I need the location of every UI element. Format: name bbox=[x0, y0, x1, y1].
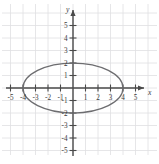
y-axis-label: y bbox=[65, 5, 70, 14]
y-tick-label: -3 bbox=[62, 122, 68, 130]
y-tick-label: -2 bbox=[62, 110, 68, 118]
y-tick-label: 3 bbox=[64, 47, 68, 55]
x-tick-label: -3 bbox=[33, 94, 39, 102]
y-tick-label: -4 bbox=[62, 135, 68, 143]
x-tick-label: -4 bbox=[20, 94, 26, 102]
grid-lines-horizontal bbox=[2, 13, 157, 151]
x-tick-label: 3 bbox=[109, 94, 113, 102]
x-axis-label: x bbox=[147, 88, 152, 97]
y-tick-label: -1 bbox=[62, 97, 68, 105]
y-tick-label: 2 bbox=[64, 60, 68, 68]
x-tick-label: 5 bbox=[134, 94, 138, 102]
x-tick-label: -5 bbox=[8, 94, 14, 102]
y-tick-label: -5 bbox=[62, 147, 68, 155]
ellipse-graph-figure: -5-4-3-2-112345 54321-1-2-3-4-5 x y bbox=[0, 0, 159, 164]
x-tick-label: 1 bbox=[84, 94, 88, 102]
grid-lines-vertical bbox=[11, 4, 149, 155]
x-axis-arrow-icon bbox=[138, 85, 144, 90]
y-tick-label: 1 bbox=[64, 72, 68, 80]
y-tick-label: 4 bbox=[64, 35, 68, 43]
y-tick-label: 5 bbox=[64, 22, 68, 30]
x-tick-label: -2 bbox=[45, 94, 51, 102]
x-tick-label: 4 bbox=[121, 94, 125, 102]
x-tick-label: 2 bbox=[96, 94, 100, 102]
coordinate-plane-plot: -5-4-3-2-112345 54321-1-2-3-4-5 x y bbox=[0, 0, 159, 164]
